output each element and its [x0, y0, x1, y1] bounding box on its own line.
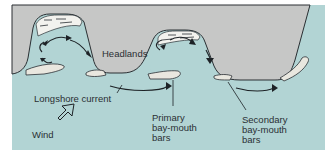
primary-bay-mouth-bars-label: Primary bay-mouth bars [152, 113, 197, 143]
wind-label: Wind [32, 130, 54, 140]
secondary-bay-mouth-bars-label: Secondary bay-mouth bars [242, 115, 287, 145]
headlands-label: Headlands [102, 49, 147, 59]
longshore-current-label: Longshore current [34, 94, 111, 104]
bay-mouth-bar-2 [86, 70, 106, 77]
bay-mouth-bar-3 [214, 75, 232, 81]
